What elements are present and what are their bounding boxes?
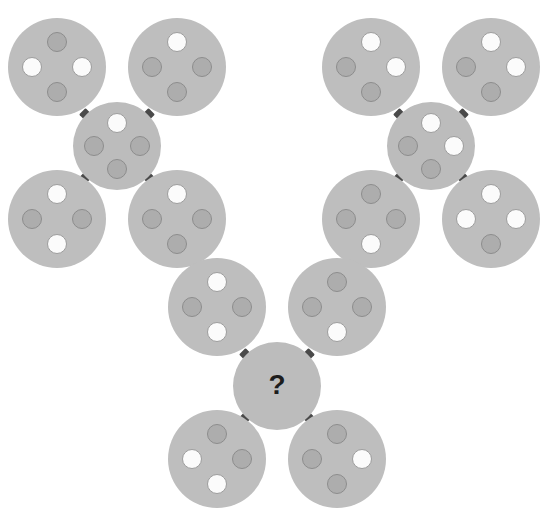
dot-top-gray (327, 424, 347, 444)
dot-bottom-white (327, 322, 347, 342)
dot-bottom-white (207, 474, 227, 494)
dot-left-gray (302, 297, 322, 317)
cluster-bottom-node-bottom-left (168, 410, 266, 508)
cluster-bottom-node-center: ? (233, 342, 321, 430)
dot-bottom-white (207, 322, 227, 342)
question-mark-label: ? (233, 342, 321, 430)
dot-left-gray (302, 449, 322, 469)
dot-top-gray (207, 424, 227, 444)
dot-right-white (352, 449, 372, 469)
dot-top-white (207, 272, 227, 292)
dot-top-gray (327, 272, 347, 292)
dot-right-gray (352, 297, 372, 317)
dot-left-white (182, 449, 202, 469)
dot-right-gray (232, 297, 252, 317)
dot-right-gray (232, 449, 252, 469)
cluster-bottom-node-bottom-right (288, 410, 386, 508)
dot-left-gray (182, 297, 202, 317)
dot-bottom-gray (327, 474, 347, 494)
